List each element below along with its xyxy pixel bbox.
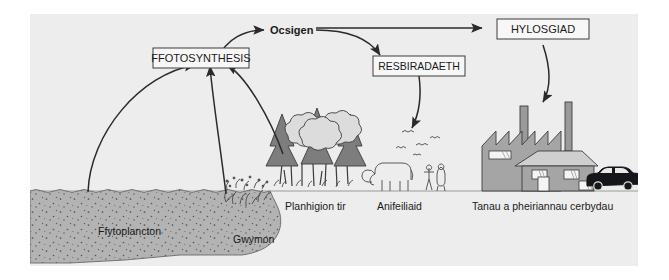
box-resbiradaeth-label: RESBIRADAETH xyxy=(378,60,460,72)
box-hylosgiad-label: HYLOSGIAD xyxy=(511,23,575,35)
label-planhigion-tir: Planhigion tir xyxy=(285,200,346,212)
box-ffotosynthesis-label: FFOTOSYNTHESIS xyxy=(151,52,250,64)
box-hylosgiad[interactable]: HYLOSGIAD xyxy=(497,19,589,39)
diagram-page: FFOTOSYNTHESIS RESBIRADAETH HYLOSGIAD Oc… xyxy=(0,0,669,280)
label-ocsigen: Ocsigen xyxy=(270,24,314,36)
label-ffytoplancton: Ffytoplancton xyxy=(98,225,161,237)
diagram-svg: FFOTOSYNTHESIS RESBIRADAETH HYLOSGIAD Oc… xyxy=(30,14,638,266)
diagram-scene: FFOTOSYNTHESIS RESBIRADAETH HYLOSGIAD Oc… xyxy=(30,14,638,266)
label-anifeiliaid: Anifeiliaid xyxy=(377,200,422,212)
box-resbiradaeth[interactable]: RESBIRADAETH xyxy=(373,56,465,76)
box-ffotosynthesis[interactable]: FFOTOSYNTHESIS xyxy=(151,48,250,68)
label-tanau-cerbydau: Tanau a pheiriannau cerbydau xyxy=(472,200,613,212)
label-gwymon: Gwymon xyxy=(233,233,275,245)
